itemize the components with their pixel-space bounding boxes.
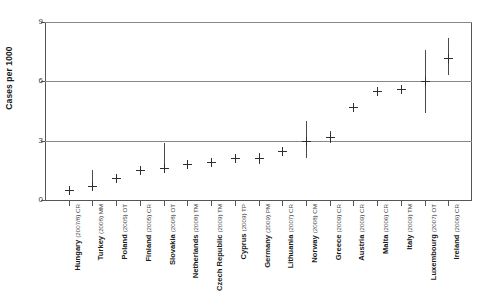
x-axis-label-country: Ireland: [452, 235, 461, 260]
x-axis-label-country: Malta: [381, 235, 390, 254]
x-tick-mark: [69, 201, 70, 206]
x-axis-label-note: (2008) TM: [192, 204, 199, 232]
x-axis-label: Poland(2005) OT: [120, 204, 132, 296]
x-axis-label: Netherlands(2008) TM: [191, 204, 203, 296]
x-axis-label-note: (2009) CR: [335, 204, 342, 233]
data-point-marker-stem: [92, 182, 93, 191]
x-axis-label-country: Norway: [310, 235, 319, 262]
x-axis-label: Czech Republic(2009) TM: [215, 204, 227, 296]
data-point-marker-stem: [401, 85, 402, 94]
y-axis-title-text: Cases per 1000: [4, 46, 14, 109]
data-point-marker-stem: [282, 147, 283, 156]
y-axis-line: [45, 22, 46, 200]
data-point-marker-stem: [69, 186, 70, 195]
x-axis-label-country: Austria: [357, 235, 366, 261]
plot-right-border: [471, 22, 472, 200]
x-axis-label: Austria(2009) CR: [357, 204, 369, 296]
data-point-marker-stem: [116, 174, 117, 183]
chart-figure: Cases per 1000 0369 Hungary(2007/8) CRTu…: [0, 0, 477, 297]
x-axis-label-country: Finland: [144, 235, 153, 262]
data-point-marker-stem: [211, 158, 212, 167]
x-tick-mark: [140, 201, 141, 206]
x-axis-label-note: (2007/8) CR: [74, 204, 81, 238]
x-tick-mark: [235, 201, 236, 206]
x-axis-label-note: (2009) PM: [264, 204, 271, 233]
x-axis-label-country: Greece: [334, 235, 343, 261]
data-point-marker-stem: [187, 160, 188, 169]
data-point-marker-stem: [164, 164, 165, 173]
x-tick-mark: [92, 201, 93, 206]
x-axis-label-note: (2005) CR: [145, 204, 152, 233]
x-axis-label-note: (2005) OT: [121, 204, 128, 232]
x-axis-label-country: Hungary: [73, 240, 82, 271]
x-tick-mark: [306, 201, 307, 206]
data-point-marker-stem: [235, 154, 236, 163]
x-tick-mark: [187, 201, 188, 206]
y-tick-label: 3: [23, 136, 43, 145]
x-axis-label-country: Czech Republic: [215, 234, 224, 291]
x-axis-label-note: (2006) CR: [382, 204, 389, 233]
x-tick-mark: [377, 201, 378, 206]
data-point-marker-stem: [353, 103, 354, 112]
x-tick-mark: [330, 201, 331, 206]
x-tick-mark: [448, 201, 449, 206]
y-tick-label: 0: [23, 195, 43, 204]
x-axis-label: Germany(2009) PM: [263, 204, 275, 296]
x-tick-mark: [353, 201, 354, 206]
x-tick-mark: [425, 201, 426, 206]
x-tick-mark: [282, 201, 283, 206]
x-axis-label-country: Poland: [120, 234, 129, 259]
data-point-marker-stem: [425, 77, 426, 86]
data-point-marker-stem: [140, 166, 141, 175]
x-axis-label-country: Slovakia: [168, 234, 177, 265]
x-axis-label-country: Cyprus: [239, 233, 248, 259]
x-axis-label-note: (2006) CR: [453, 204, 460, 233]
x-axis-label: Ireland(2006) CR: [452, 204, 464, 296]
data-point-marker-stem: [306, 137, 307, 146]
x-axis-label-country: Netherlands: [191, 234, 200, 278]
x-axis-label-note: (2009) TM: [216, 204, 223, 232]
x-axis-label-country: Turkey: [96, 236, 105, 260]
x-axis-label: Luxembourg(2007) OT: [429, 204, 441, 296]
x-tick-mark: [116, 201, 117, 206]
x-axis-label: Cyprus(2009) TP: [239, 204, 251, 296]
x-tick-mark: [401, 201, 402, 206]
x-axis-label: Greece(2009) CR: [334, 204, 346, 296]
y-axis-title: Cases per 1000: [2, 18, 16, 138]
x-axis-label: Turkey(2008) MM: [96, 204, 108, 296]
x-axis-label-note: (2008) MM: [97, 204, 104, 234]
x-axis-label-note: (2009) TM: [406, 204, 413, 232]
x-tick-mark: [211, 201, 212, 206]
gridline: [45, 141, 472, 142]
plot-area: 0369: [45, 22, 472, 200]
data-point-marker-stem: [259, 154, 260, 163]
x-axis-label-country: Italy: [405, 234, 414, 249]
x-axis-label: Slovakia(2008) OT: [168, 204, 180, 296]
data-point-marker-stem: [330, 133, 331, 142]
x-tick-mark: [259, 201, 260, 206]
x-tick-mark: [164, 201, 165, 206]
x-axis-label-note: (2009) TP: [240, 204, 247, 231]
x-axis-label-country: Germany: [263, 235, 272, 268]
x-axis-label: Italy(2009) TM: [405, 204, 417, 296]
x-axis-label-note: (2008) OT: [169, 204, 176, 232]
x-axis-label-country: Luxembourg: [429, 234, 438, 280]
x-axis-label-note: (2009) CR: [358, 204, 365, 233]
x-axis-label: Lithuania(2007) CR: [286, 204, 298, 296]
data-point-marker-stem: [377, 87, 378, 96]
x-axis-label: Finland(2005) CR: [144, 204, 156, 296]
x-axis-label-note: (2008) CM: [311, 204, 318, 233]
data-point-marker-stem: [448, 54, 449, 63]
x-axis-label-country: Lithuania: [286, 235, 295, 269]
gridline: [45, 81, 472, 82]
x-axis-label: Malta(2006) CR: [381, 204, 393, 296]
gridline: [45, 22, 472, 23]
x-axis-label-note: (2007) CR: [287, 204, 294, 233]
y-tick-label: 6: [23, 76, 43, 85]
x-axis-label-note: (2007) OT: [430, 204, 437, 232]
x-axis-label: Hungary(2007/8) CR: [73, 204, 85, 296]
x-axis-label: Norway(2008) CM: [310, 204, 322, 296]
y-tick-label: 9: [23, 17, 43, 26]
